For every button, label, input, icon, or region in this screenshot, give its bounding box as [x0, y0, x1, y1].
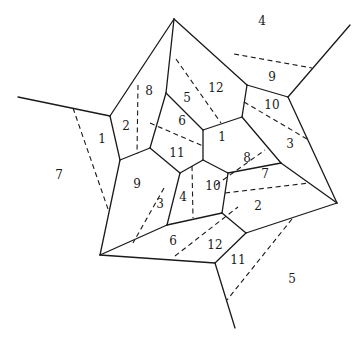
solid-edge: [100, 225, 167, 255]
region-label: 5: [183, 91, 191, 105]
solid-edge: [281, 163, 337, 203]
solid-edges: [18, 19, 350, 328]
solid-edge: [247, 85, 288, 97]
solid-edge: [100, 160, 120, 255]
solid-edge: [18, 97, 110, 116]
region-label: 2: [254, 199, 262, 213]
dashed-edge: [73, 108, 108, 209]
solid-edge: [215, 263, 235, 328]
region-label: 7: [55, 168, 63, 182]
solid-edge: [203, 160, 228, 173]
solid-edge: [288, 25, 350, 97]
solid-edge: [288, 97, 337, 203]
region-label: 8: [243, 151, 251, 165]
diagram-canvas: 491012852611371187910432612115: [0, 0, 359, 340]
region-label: 8: [145, 84, 153, 98]
region-label: 4: [179, 190, 187, 204]
solid-edge: [228, 163, 281, 173]
solid-edge: [110, 19, 174, 116]
dashed-edge: [192, 166, 193, 218]
region-label: 10: [205, 179, 220, 193]
region-label: 7: [261, 167, 269, 181]
region-label: 6: [169, 234, 177, 248]
subdivision-diagram: 491012852611371187910432612115: [0, 0, 359, 340]
solid-edge: [167, 213, 222, 225]
dashed-edge: [150, 123, 203, 146]
solid-edge: [174, 19, 247, 85]
solid-edge: [167, 173, 180, 225]
dashed-edge: [225, 183, 309, 193]
solid-edge: [120, 148, 150, 160]
region-label: 9: [268, 70, 276, 84]
region-label: 11: [230, 253, 245, 267]
region-label: 5: [288, 272, 296, 286]
solid-edge: [203, 117, 242, 130]
dashed-edge: [137, 85, 138, 154]
solid-edge: [110, 116, 120, 160]
region-label: 2: [122, 119, 130, 133]
dashed-edges: [73, 54, 312, 300]
region-label: 12: [208, 81, 223, 95]
region-label: 10: [264, 98, 279, 112]
region-label: 11: [169, 146, 184, 160]
solid-edge: [150, 93, 166, 148]
dashed-edge: [234, 54, 312, 68]
region-label: 3: [156, 197, 164, 211]
region-labels: 491012852611371187910432612115: [55, 14, 296, 286]
region-label: 1: [218, 130, 226, 144]
region-label: 9: [133, 177, 141, 191]
region-label: 12: [207, 238, 222, 252]
solid-edge: [242, 85, 247, 117]
solid-edge: [100, 255, 215, 263]
region-label: 4: [258, 14, 266, 28]
region-label: 1: [98, 132, 106, 146]
region-label: 3: [286, 137, 294, 151]
region-label: 6: [178, 114, 186, 128]
